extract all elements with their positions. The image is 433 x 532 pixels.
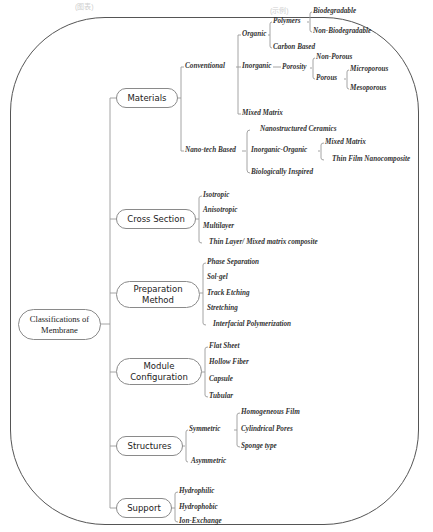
leaf-cylindrical-pores: Cylindrical Pores [241, 426, 293, 433]
category-label-line1: Module [130, 361, 188, 372]
leaf-conventional: Conventional [185, 63, 225, 70]
leaf-inorganic-organic: Inorganic-Organic [251, 147, 307, 154]
leaf-multilayer: Multilayer [203, 223, 234, 230]
leaf-anisotropic: Anisotropic [203, 207, 237, 214]
category-node-support: Support [116, 498, 172, 518]
leaf-hydrophilic: Hydrophilic [179, 488, 215, 495]
leaf-mixed-matrix: Mixed Matrix [242, 110, 283, 117]
leaf-nano-tech-based: Nano-tech Based [185, 147, 236, 154]
leaf-tubular: Tubular [209, 393, 233, 400]
category-node-structures: Structures [116, 436, 183, 456]
leaf-thin-film-nanocomposite: Thin Film Nanocomposite [332, 156, 410, 163]
leaf-sponge-type: Sponge type [241, 443, 277, 450]
leaf-nano-mixed-matrix: Mixed Matrix [325, 139, 366, 146]
category-node-preparation-method: Preparation Method [116, 281, 200, 308]
leaf-homogeneous-film: Homogeneous Film [241, 409, 300, 416]
leaf-non-porous: Non-Porous [316, 54, 352, 61]
root-label-line2: Membrane [30, 325, 89, 336]
leaf-phase-separation: Phase Separation [207, 259, 259, 266]
root-node-classifications-of-membrane: Classifications of Membrane [18, 309, 101, 340]
leaf-microporous: Microporous [350, 66, 388, 73]
leaf-nanostructured-ceramics: Nanostructured Ceramics [260, 126, 336, 133]
leaf-porous: Porous [316, 75, 337, 82]
category-node-cross-section: Cross Section [116, 209, 196, 229]
leaf-interfacial-polymerization: Interfacial Polymerization [213, 321, 291, 328]
root-label-line1: Classifications of [30, 314, 89, 325]
category-label: Cross Section [127, 214, 185, 225]
leaf-thin-layer-mixed-matrix-composite: Thin Layer/ Mixed matrix composite [209, 239, 318, 246]
leaf-sol-gel: Sol-gel [207, 274, 228, 281]
leaf-biodegradable: Biodegradable [313, 8, 356, 15]
category-label-line1: Preparation [133, 284, 182, 295]
category-label-line2: Method [133, 295, 182, 306]
leaf-stretching: Stretching [207, 305, 238, 312]
category-node-module-configuration: Module Configuration [116, 358, 202, 385]
leaf-organic: Organic [242, 31, 266, 38]
leaf-inorganic: Inorganic [242, 63, 272, 70]
category-label: Structures [128, 441, 172, 452]
leaf-capsule: Capsule [209, 376, 233, 383]
leaf-polymers: Polymers [273, 18, 301, 25]
leaf-mesoporous: Mesoporous [350, 85, 386, 92]
leaf-hollow-fiber: Hollow Fiber [209, 359, 249, 366]
leaf-non-biodegradable: Non-Biodegradable [313, 28, 371, 35]
leaf-symmetric: Symmetric [189, 426, 221, 433]
category-label: Materials [128, 93, 167, 104]
category-node-materials: Materials [116, 88, 178, 108]
leaf-biologically-inspired: Biologically Inspired [251, 169, 313, 176]
leaf-hydrophobic: Hydrophobic [179, 504, 218, 511]
leaf-track-etching: Track Etching [207, 290, 250, 297]
category-label-line2: Configuration [130, 372, 188, 383]
leaf-asymmetric: Asymmetric [191, 458, 226, 465]
leaf-porosity: Porosity [282, 64, 306, 71]
leaf-isotropic: Isotropic [203, 192, 229, 199]
category-label: Support [127, 503, 161, 514]
leaf-ion-exchange: Ion-Exchange [179, 518, 222, 525]
leaf-flat-sheet: Flat Sheet [209, 343, 240, 350]
leaf-carbon-based: Carbon Based [273, 44, 315, 51]
